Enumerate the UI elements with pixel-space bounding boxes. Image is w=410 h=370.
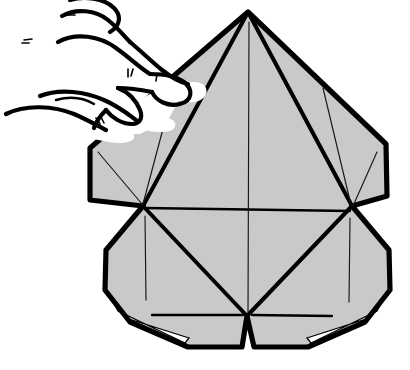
knuckle-mark-nail-c	[156, 74, 157, 81]
crease-lower-right-horizontal	[252, 315, 332, 316]
knuckle-mark-1	[24, 39, 32, 40]
knuckle-mark-3	[70, 11, 78, 12]
figure-root: Origami fold step diagram A hand holding…	[0, 0, 410, 370]
origami-diagram-svg	[0, 0, 410, 370]
